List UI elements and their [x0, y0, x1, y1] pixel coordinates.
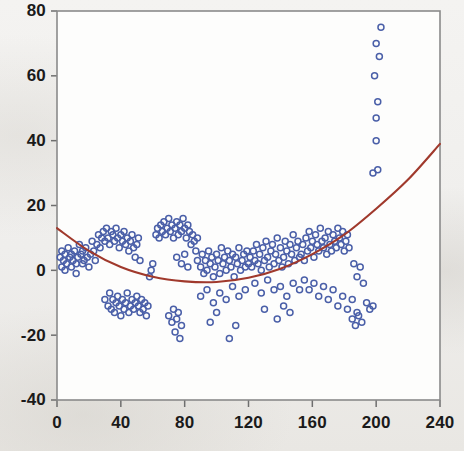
y-axis-tick-labels: -40-20020406080 — [21, 1, 46, 409]
y-tick-label: 40 — [27, 131, 46, 150]
y-tick-label: 80 — [27, 1, 46, 20]
chart-canvas: -40-20020406080 04080120160200240 — [0, 0, 464, 451]
scatter-plot-figure: -40-20020406080 04080120160200240 — [0, 0, 464, 451]
x-axis-tick-labels: 04080120160200240 — [52, 413, 454, 432]
y-tick-label: 20 — [27, 196, 46, 215]
x-tick-label: 240 — [426, 413, 455, 432]
x-tick-label: 40 — [111, 413, 130, 432]
y-tick-label: 0 — [36, 261, 46, 280]
x-tick-label: 200 — [362, 413, 391, 432]
y-tick-label: 60 — [27, 66, 46, 85]
x-tick-label: 80 — [175, 413, 194, 432]
plot-background — [57, 11, 440, 400]
x-tick-label: 0 — [52, 413, 62, 432]
x-tick-label: 160 — [298, 413, 327, 432]
y-tick-label: -20 — [21, 326, 46, 345]
y-tick-label: -40 — [21, 390, 46, 409]
x-tick-label: 120 — [234, 413, 263, 432]
